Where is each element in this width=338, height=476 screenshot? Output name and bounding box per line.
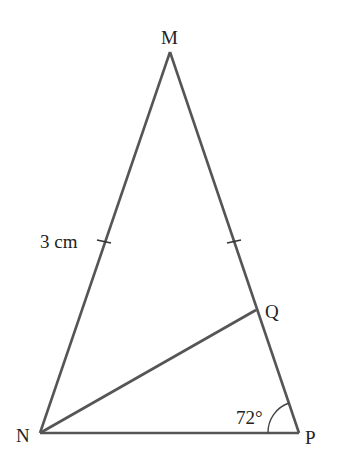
angle-label-P: 72° — [236, 407, 263, 428]
segment-NQ — [40, 310, 256, 433]
triangle-diagram: M N P Q 3 cm 72° — [0, 0, 338, 476]
vertex-label-M: M — [161, 27, 178, 48]
side-MP — [170, 52, 299, 433]
vertex-label-P: P — [305, 427, 316, 448]
vertex-label-N: N — [16, 425, 30, 446]
vertex-label-Q: Q — [265, 301, 279, 322]
side-length-label: 3 cm — [40, 231, 78, 252]
angle-arc-P — [268, 403, 289, 433]
